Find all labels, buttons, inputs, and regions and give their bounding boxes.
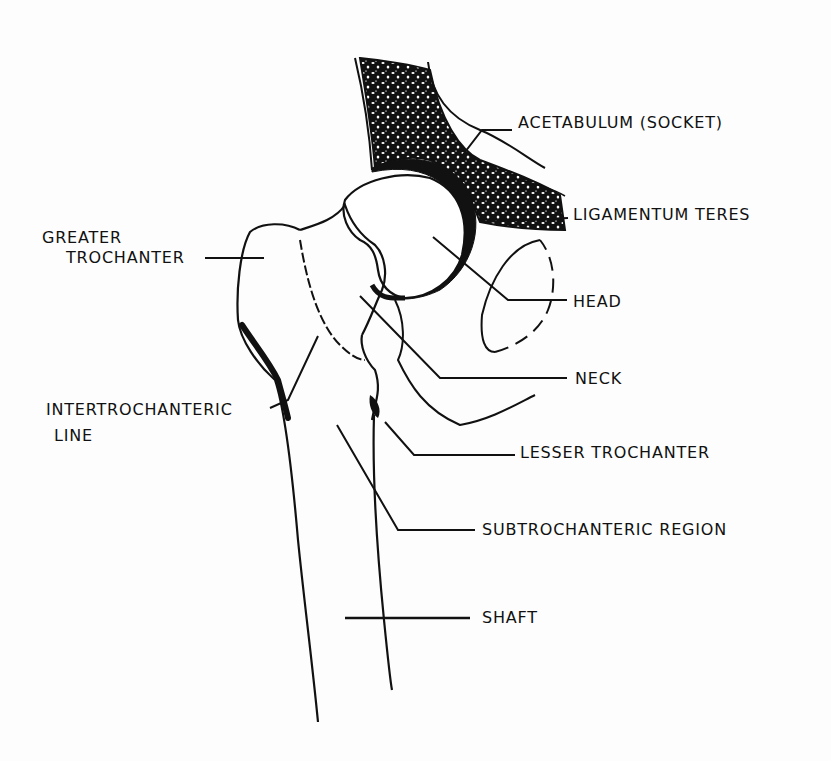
label-greater-trochanter-line1: GREATER (42, 228, 122, 248)
label-lesser-trochanter: LESSER TROCHANTER (520, 443, 710, 463)
leader-subtrochanteric (337, 425, 475, 530)
obturator-outline (482, 240, 554, 352)
label-neck: NECK (575, 369, 622, 389)
label-intertrochanteric-line1: INTERTROCHANTERIC (46, 400, 233, 420)
label-acetabulum: ACETABULUM (SOCKET) (518, 113, 723, 133)
label-greater-trochanter-line2: TROCHANTER (66, 248, 185, 268)
label-subtrochanteric-region: SUBTROCHANTERIC REGION (482, 520, 727, 540)
leader-intertrochanteric (270, 336, 318, 408)
label-ligamentum-teres: LIGAMENTUM TERES (573, 205, 750, 225)
label-shaft: SHAFT (482, 608, 538, 628)
leader-neck (360, 296, 567, 378)
label-head: HEAD (573, 292, 622, 312)
label-intertrochanteric-line2: LINE (54, 426, 93, 446)
leader-lesser-trochanter (385, 422, 515, 455)
diagram-canvas: ACETABULUM (SOCKET) LIGAMENTUM TERES GRE… (0, 0, 831, 761)
femoral-head (343, 175, 464, 298)
